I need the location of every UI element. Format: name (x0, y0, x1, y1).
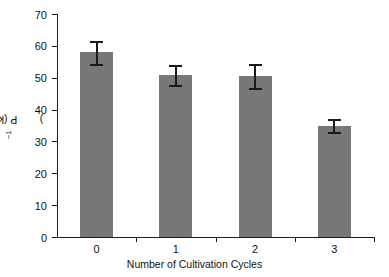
error-bar-cap-lower (90, 64, 103, 66)
error-bar-cap-upper (328, 119, 341, 121)
x-axis-tick-label: 3 (331, 243, 337, 255)
error-bar-cap-upper (169, 65, 182, 67)
y-axis-tick-label: 30 (35, 136, 47, 148)
error-bar-cap-upper (249, 64, 262, 66)
error-bar-cap-lower (169, 85, 182, 87)
y-axis-tick-label: 60 (35, 40, 47, 52)
y-axis-tick: 20 (52, 173, 57, 174)
bar (239, 76, 272, 237)
x-axis-tick (136, 237, 137, 242)
error-bar-cap-lower (249, 88, 262, 90)
y-axis-tick-label: 70 (35, 9, 47, 21)
x-axis-tick-label: 0 (94, 243, 100, 255)
bar-chart-figure: P (kg ha−1) 010203040506070 Number of Cu… (0, 0, 389, 277)
error-bar-line (96, 41, 98, 64)
y-axis-tick: 0 (52, 237, 57, 238)
x-axis-tick (295, 237, 296, 242)
error-bar-line (254, 64, 256, 88)
plot-area: 010203040506070 (57, 14, 374, 237)
x-axis-tick (216, 237, 217, 242)
y-axis-tick: 60 (52, 46, 57, 47)
error-bar-cap-lower (328, 132, 341, 134)
y-axis-tick-label: 20 (35, 168, 47, 180)
bar (80, 52, 113, 237)
y-axis-tick: 40 (52, 110, 57, 111)
x-axis-tick-label: 2 (252, 243, 258, 255)
x-axis-title: Number of Cultivation Cycles (0, 258, 389, 270)
y-axis-tick: 30 (52, 141, 57, 142)
y-axis-tick-label: 40 (35, 104, 47, 116)
y-axis-title: P (kg ha−1) (2, 0, 18, 240)
x-axis-tick (374, 237, 375, 242)
y-axis-title-superscript: −1 (3, 131, 12, 140)
error-bar-line (175, 65, 177, 85)
y-axis-tick: 50 (52, 78, 57, 79)
bar (159, 75, 192, 237)
bar (318, 126, 351, 238)
x-axis-tick-label: 1 (173, 243, 179, 255)
y-axis-tick: 70 (52, 14, 57, 15)
error-bar-cap-upper (90, 41, 103, 43)
y-axis-tick-label: 10 (35, 200, 47, 212)
y-axis-tick: 10 (52, 205, 57, 206)
y-axis-tick-label: 50 (35, 72, 47, 84)
y-axis-tick-label: 0 (41, 232, 47, 244)
